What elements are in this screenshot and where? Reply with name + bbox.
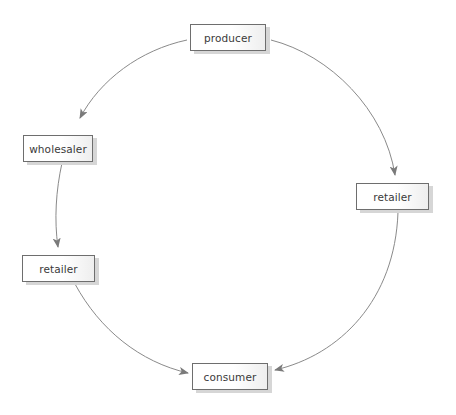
edge-producer-to-wholesaler <box>80 40 187 118</box>
node-label: retailer <box>373 191 412 203</box>
edge-producer-to-retailer-right <box>271 40 395 175</box>
edge-retailer-left-to-consumer <box>75 284 188 373</box>
node-label: consumer <box>204 371 257 383</box>
node-label: wholesaler <box>29 143 87 155</box>
node-retailer-left: retailer <box>22 255 95 282</box>
node-wholesaler: wholesaler <box>23 135 93 162</box>
node-consumer: consumer <box>192 363 268 390</box>
edge-retailer-right-to-consumer <box>275 212 398 370</box>
edge-wholesaler-to-retailer-left <box>56 163 62 247</box>
node-label: producer <box>204 32 252 44</box>
node-label: retailer <box>39 263 78 275</box>
node-retailer-right: retailer <box>356 183 429 210</box>
distribution-channel-diagram: producer wholesaler retailer retailer co… <box>0 0 456 415</box>
node-producer: producer <box>190 24 266 51</box>
